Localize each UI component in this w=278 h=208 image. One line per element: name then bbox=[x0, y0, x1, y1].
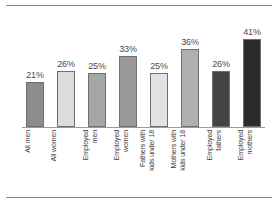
bar-series: 21%26%25%33%25%36%26%41% bbox=[22, 16, 265, 127]
bar bbox=[212, 71, 230, 127]
bar bbox=[150, 73, 168, 127]
category-label: Employedmothers bbox=[237, 130, 254, 160]
figure-bottom-rule bbox=[6, 197, 272, 198]
category-label: All men bbox=[24, 130, 33, 153]
category-label-line2: fathers bbox=[214, 130, 223, 160]
bar-slot: 25% bbox=[88, 16, 106, 127]
bar-value-label: 33% bbox=[119, 44, 136, 54]
category-label: Employedmen bbox=[82, 130, 99, 160]
category-label-line2: kids under 18 bbox=[178, 130, 187, 171]
bar-value-label: 26% bbox=[212, 59, 229, 69]
category-label-line1: Employed bbox=[113, 130, 120, 160]
bar-slot: 26% bbox=[212, 16, 230, 127]
bar-value-label: 26% bbox=[57, 59, 74, 69]
category-label-slot: Employedmen bbox=[88, 130, 106, 194]
category-label-line2: mothers bbox=[245, 130, 254, 160]
bar bbox=[57, 71, 75, 127]
category-label-line1: All men bbox=[24, 130, 31, 153]
category-axis-line bbox=[22, 127, 265, 128]
category-label: Employedwomen bbox=[113, 130, 130, 160]
category-label-line1: Mothers with bbox=[170, 130, 177, 168]
bar-value-label: 25% bbox=[150, 61, 167, 71]
category-labels: All menAll womenEmployedmenEmployedwomen… bbox=[22, 130, 265, 194]
category-label: Fathers withkids under 18 bbox=[139, 130, 156, 171]
bar bbox=[243, 39, 261, 127]
bar-slot: 26% bbox=[57, 16, 75, 127]
bar-value-label: 36% bbox=[181, 37, 198, 47]
bar-slot: 41% bbox=[243, 16, 261, 127]
category-label: All women bbox=[50, 130, 59, 161]
category-label-line1: Employed bbox=[237, 130, 244, 160]
bar-slot: 25% bbox=[150, 16, 168, 127]
category-label: Employedfathers bbox=[206, 130, 223, 160]
category-label-slot: Employedmothers bbox=[243, 130, 261, 194]
category-label-slot: Mothers withkids under 18 bbox=[181, 130, 199, 194]
category-label: Mothers withkids under 18 bbox=[170, 130, 187, 171]
chart-figure: 21%26%25%33%25%36%26%41% All menAll wome… bbox=[0, 0, 278, 208]
category-label-slot: All women bbox=[57, 130, 75, 194]
category-label-line1: Employed bbox=[82, 130, 89, 160]
bar bbox=[119, 56, 137, 127]
bar-slot: 33% bbox=[119, 16, 137, 127]
category-label-line2: men bbox=[90, 130, 99, 160]
category-label-slot: All men bbox=[26, 130, 44, 194]
category-label-slot: Employedfathers bbox=[212, 130, 230, 194]
category-label-slot: Employedwomen bbox=[119, 130, 137, 194]
category-label-line1: Fathers with bbox=[139, 130, 146, 167]
bar-value-label: 21% bbox=[26, 70, 43, 80]
bar-slot: 36% bbox=[181, 16, 199, 127]
bar-value-label: 25% bbox=[88, 61, 105, 71]
bar bbox=[26, 82, 44, 127]
bar bbox=[88, 73, 106, 127]
figure-top-rule bbox=[6, 5, 272, 6]
category-label-slot: Fathers withkids under 18 bbox=[150, 130, 168, 194]
category-label-line2: kids under 18 bbox=[147, 130, 156, 171]
bar bbox=[181, 49, 199, 127]
category-label-line1: Employed bbox=[206, 130, 213, 160]
bar-slot: 21% bbox=[26, 16, 44, 127]
category-label-line1: All women bbox=[50, 130, 57, 161]
bar-value-label: 41% bbox=[243, 27, 260, 37]
category-label-line2: women bbox=[121, 130, 130, 160]
